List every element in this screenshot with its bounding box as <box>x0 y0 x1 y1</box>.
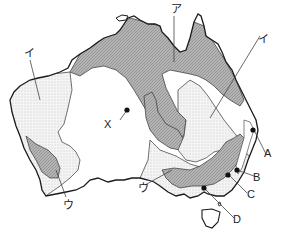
point-x <box>124 107 129 112</box>
island-north <box>116 15 128 21</box>
point-B <box>234 167 239 172</box>
label-point-x: X <box>104 119 111 130</box>
point-D <box>201 185 206 190</box>
label-point-C: C <box>247 189 255 200</box>
label-zone-i-east: イ <box>258 34 269 45</box>
label-zone-u-west: ウ <box>63 200 74 211</box>
label-point-B: B <box>253 172 260 183</box>
point-C <box>225 172 230 177</box>
label-zone-a: ア <box>171 4 182 15</box>
label-point-A: A <box>264 148 271 159</box>
point-A <box>250 127 255 132</box>
label-point-D: D <box>233 214 241 225</box>
island-tasmania <box>202 209 220 228</box>
australia-map <box>0 0 284 243</box>
label-zone-u-south: ウ <box>138 183 149 194</box>
label-zone-i-west: イ <box>24 48 35 59</box>
